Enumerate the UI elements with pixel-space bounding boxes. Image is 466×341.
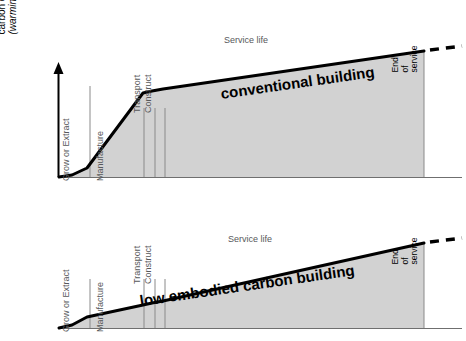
area-fill-conventional [59,51,424,177]
lifecycle-carbon-figure: Climate Effect carbon emissions (warming… [0,0,466,341]
y-axis-arrowhead [54,62,64,74]
dashed-end-of-service-conventional [430,46,462,50]
chart-conventional [54,46,463,178]
chart-low-embodied-carbon [59,238,462,329]
figure-canvas [0,0,466,341]
dashed-end-of-service-low [430,238,462,242]
